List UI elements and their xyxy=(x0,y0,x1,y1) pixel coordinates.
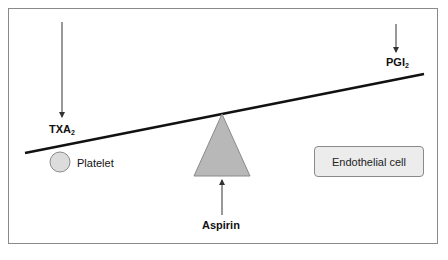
platelet-icon xyxy=(50,152,70,172)
aspirin-label: Aspirin xyxy=(202,219,240,231)
txa2-label: TXA2 xyxy=(49,123,75,136)
platelet-label: Platelet xyxy=(77,157,114,169)
endothelial-cell-label: Endothelial cell xyxy=(332,156,406,168)
pgi2-label: PGI2 xyxy=(386,56,409,69)
endothelial-cell-box: Endothelial cell xyxy=(314,146,424,177)
fulcrum-triangle-icon xyxy=(194,114,250,176)
